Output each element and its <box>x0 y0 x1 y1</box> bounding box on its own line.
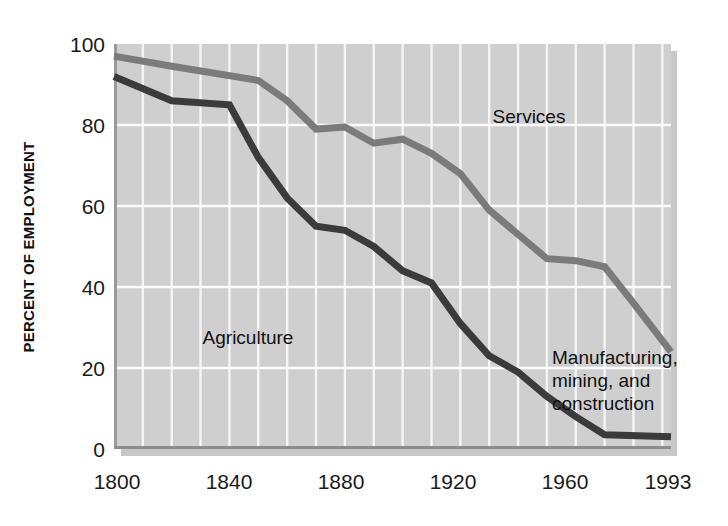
y-tick-label-60: 60 <box>82 195 105 218</box>
x-tick-label-1800: 1800 <box>94 470 141 493</box>
y-tick-label-40: 40 <box>82 276 105 299</box>
y-tick-label-80: 80 <box>82 114 105 137</box>
manufacturing-label-line-3: construction <box>552 393 654 414</box>
manufacturing-label-line-2: mining, and <box>552 370 650 391</box>
x-tick-label-1920: 1920 <box>430 470 477 493</box>
y-tick-label-20: 20 <box>82 357 105 380</box>
y-axis-title: PERCENT OF EMPLOYMENT <box>20 142 37 353</box>
y-tick-label-0: 0 <box>93 438 105 461</box>
x-tick-label-1960: 1960 <box>542 470 589 493</box>
agriculture-series-label: Agriculture <box>203 327 294 348</box>
x-tick-label-1993: 1993 <box>645 470 692 493</box>
manufacturing-label-line-1: Manufacturing, <box>552 347 678 368</box>
y-tick-label-100: 100 <box>70 33 105 56</box>
x-tick-label-1880: 1880 <box>318 470 365 493</box>
employment-share-chart: PERCENT OF EMPLOYMENT 100 80 60 40 20 0 … <box>0 0 728 526</box>
services-series-label: Services <box>493 106 566 127</box>
x-tick-label-1840: 1840 <box>206 470 253 493</box>
